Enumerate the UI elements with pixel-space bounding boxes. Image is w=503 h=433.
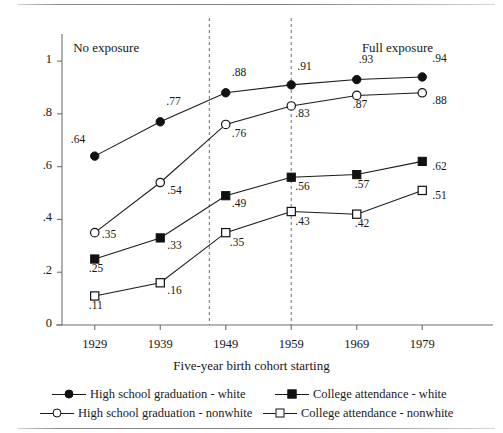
x-tick-label: 1959	[261, 337, 321, 352]
data-point-label: .51	[432, 189, 446, 201]
data-point-marker	[156, 279, 164, 287]
data-point-marker	[156, 178, 164, 186]
legend-glyph	[53, 409, 62, 418]
legend-label: High school graduation - white	[90, 387, 246, 401]
y-tick-label: 1	[26, 52, 52, 67]
data-point-label: .35	[230, 236, 244, 248]
data-point-label: .54	[167, 184, 181, 196]
x-tick-label: 1949	[196, 337, 256, 352]
data-point-marker	[287, 102, 295, 110]
data-point-marker	[156, 118, 164, 126]
data-point-label: .87	[353, 98, 367, 110]
data-point-label: .35	[102, 228, 116, 240]
series-line	[95, 77, 423, 156]
x-tick-label: 1939	[130, 337, 190, 352]
data-point-marker	[222, 192, 230, 200]
data-point-label: .91	[297, 60, 311, 72]
data-point-label: .88	[432, 94, 446, 106]
reference-lines	[209, 18, 291, 325]
legend-label: College attendance - nonwhite	[301, 406, 453, 420]
series-line	[95, 93, 423, 233]
data-point-marker	[222, 89, 230, 97]
data-point-label: .43	[295, 215, 309, 227]
y-tick-label: .2	[26, 263, 52, 278]
y-tick-label: .4	[26, 210, 52, 225]
data-point-label: .16	[167, 284, 181, 296]
data-point-label: .57	[355, 178, 369, 190]
data-point-marker	[353, 75, 361, 83]
chart-legend: High school graduation - whiteHigh schoo…	[0, 386, 503, 428]
data-point-marker	[91, 228, 99, 236]
y-tick-label: 0	[26, 316, 52, 331]
data-point-label: .56	[295, 180, 309, 192]
data-point-label: .83	[295, 107, 309, 119]
legend-item[interactable]: High school graduation - white	[52, 386, 246, 402]
zone-label-no-exposure: No exposure	[73, 40, 139, 56]
data-point-marker	[156, 234, 164, 242]
data-point-marker	[418, 157, 426, 165]
figure-page: 0.2.4.6.81192919391949195919691979No exp…	[0, 0, 503, 433]
y-tick-label: .8	[26, 105, 52, 120]
legend-glyph	[288, 390, 297, 399]
data-point-label: .94	[432, 52, 446, 64]
x-tick-label: 1979	[392, 337, 452, 352]
legend-marker-circle-filled-icon	[52, 389, 86, 399]
data-point-marker	[91, 152, 99, 160]
x-axis-title: Five-year birth cohort starting	[0, 358, 503, 374]
data-point-label: .64	[71, 133, 85, 145]
legend-marker-square-open-icon	[263, 408, 297, 418]
legend-glyph	[65, 390, 74, 399]
data-point-marker	[222, 229, 230, 237]
data-point-label: .77	[166, 95, 180, 107]
y-tick-label: .6	[26, 158, 52, 173]
legend-item[interactable]: College attendance - white	[275, 386, 447, 402]
data-point-label: .76	[232, 127, 246, 139]
legend-marker-circle-open-icon	[40, 408, 74, 418]
legend-marker-square-filled-icon	[275, 389, 309, 399]
data-point-marker	[418, 73, 426, 81]
data-point-label: .93	[359, 53, 373, 65]
legend-label: College attendance - white	[313, 387, 447, 401]
data-point-marker	[222, 120, 230, 128]
x-tick-label: 1929	[65, 337, 125, 352]
data-point-label: .49	[232, 197, 246, 209]
legend-item[interactable]: High school graduation - nonwhite	[40, 405, 252, 421]
data-point-label: .42	[355, 217, 369, 229]
data-point-label: .25	[89, 262, 103, 274]
legend-item[interactable]: College attendance - nonwhite	[263, 405, 453, 421]
chart-series	[91, 73, 427, 300]
legend-label: High school graduation - nonwhite	[78, 406, 252, 420]
data-point-label: .62	[432, 160, 446, 172]
x-tick-label: 1969	[327, 337, 387, 352]
series-line	[95, 161, 423, 259]
data-point-label: .88	[232, 66, 246, 78]
data-point-label: .33	[167, 239, 181, 251]
data-point-marker	[418, 186, 426, 194]
data-point-marker	[287, 173, 295, 181]
legend-glyph	[276, 409, 285, 418]
data-point-marker	[287, 207, 295, 215]
data-point-marker	[418, 89, 426, 97]
data-point-marker	[287, 81, 295, 89]
data-point-label: .11	[89, 299, 103, 311]
